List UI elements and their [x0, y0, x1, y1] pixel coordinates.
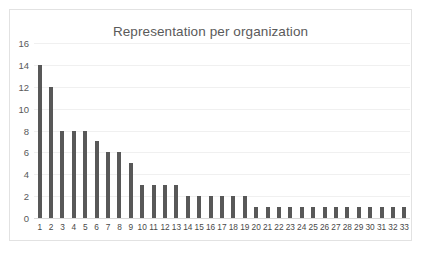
bar	[72, 131, 76, 219]
bar-group: 7	[102, 43, 113, 218]
bar-group: 16	[205, 43, 216, 218]
bar-group: 15	[194, 43, 205, 218]
x-axis-tick-label: 12	[160, 222, 169, 232]
x-axis-tick-label: 30	[365, 222, 374, 232]
axis-baseline	[34, 218, 410, 219]
x-axis-tick-label: 14	[183, 222, 192, 232]
bar	[368, 207, 372, 218]
bar	[300, 207, 304, 218]
bar-group: 25	[307, 43, 318, 218]
bar	[231, 196, 235, 218]
y-axis-tick-label: 16	[18, 38, 29, 49]
x-axis-tick-label: 32	[388, 222, 397, 232]
x-axis-tick-label: 21	[263, 222, 272, 232]
bar-group: 23	[285, 43, 296, 218]
bar	[209, 196, 213, 218]
bar-group: 4	[68, 43, 79, 218]
bar	[288, 207, 292, 218]
bar	[266, 207, 270, 218]
x-axis-tick-label: 17	[217, 222, 226, 232]
bar	[391, 207, 395, 218]
bar-group: 8	[114, 43, 125, 218]
y-axis-tick-label: 2	[24, 191, 29, 202]
x-axis-tick-label: 2	[49, 222, 54, 232]
bar	[163, 185, 167, 218]
y-axis-tick-label: 6	[24, 147, 29, 158]
bar	[152, 185, 156, 218]
x-axis-tick-label: 26	[320, 222, 329, 232]
chart-title: Representation per organization	[10, 24, 411, 39]
x-axis-tick-label: 23	[286, 222, 295, 232]
x-axis-tick-label: 16	[206, 222, 215, 232]
x-axis-tick-label: 19	[240, 222, 249, 232]
bar	[140, 185, 144, 218]
x-axis-tick-label: 5	[83, 222, 88, 232]
bar-group: 28	[342, 43, 353, 218]
x-axis-tick-label: 7	[106, 222, 111, 232]
x-axis-tick-label: 11	[149, 222, 158, 232]
x-axis-tick-label: 9	[129, 222, 134, 232]
x-axis-tick-label: 6	[94, 222, 99, 232]
bar-group: 1	[34, 43, 45, 218]
bar-group: 10	[137, 43, 148, 218]
bar	[174, 185, 178, 218]
bar	[60, 131, 64, 219]
bar-group: 18	[228, 43, 239, 218]
x-axis-tick-label: 31	[377, 222, 386, 232]
bar	[83, 131, 87, 219]
y-axis-tick-label: 0	[24, 213, 29, 224]
bar	[95, 141, 99, 218]
x-axis-tick-label: 27	[331, 222, 340, 232]
bar	[243, 196, 247, 218]
bar-group: 26	[319, 43, 330, 218]
y-axis-tick-label: 10	[18, 103, 29, 114]
x-axis-tick-label: 29	[354, 222, 363, 232]
bar	[277, 207, 281, 218]
bar-group: 24	[296, 43, 307, 218]
x-axis-tick-label: 8	[117, 222, 122, 232]
bar	[380, 207, 384, 218]
x-axis-tick-label: 13	[172, 222, 181, 232]
bar-group: 12	[159, 43, 170, 218]
bar	[357, 207, 361, 218]
x-axis-tick-label: 1	[37, 222, 42, 232]
bar-group: 27	[330, 43, 341, 218]
bar	[334, 207, 338, 218]
bar-group: 31	[376, 43, 387, 218]
bar	[402, 207, 406, 218]
bar-group: 33	[399, 43, 410, 218]
x-axis-tick-label: 18	[229, 222, 238, 232]
y-axis-tick-label: 12	[18, 81, 29, 92]
x-axis-tick-label: 4	[72, 222, 77, 232]
bar	[323, 207, 327, 218]
bar-group: 9	[125, 43, 136, 218]
y-axis-tick-label: 14	[18, 59, 29, 70]
bar	[117, 152, 121, 218]
y-axis-tick-label: 4	[24, 169, 29, 180]
x-axis-tick-label: 25	[309, 222, 318, 232]
bar	[345, 207, 349, 218]
bar-group: 30	[364, 43, 375, 218]
x-axis-tick-label: 20	[252, 222, 261, 232]
bar	[129, 163, 133, 218]
bar-group: 11	[148, 43, 159, 218]
bar-group: 21	[262, 43, 273, 218]
bar	[49, 87, 53, 218]
bar-group: 3	[57, 43, 68, 218]
bar	[38, 65, 42, 218]
x-axis-tick-label: 24	[297, 222, 306, 232]
x-axis-tick-label: 33	[400, 222, 409, 232]
bar	[197, 196, 201, 218]
bar-group: 6	[91, 43, 102, 218]
bar	[220, 196, 224, 218]
bar-group: 14	[182, 43, 193, 218]
y-axis-tick-label: 8	[24, 125, 29, 136]
bar-group: 17	[216, 43, 227, 218]
x-axis-tick-label: 28	[343, 222, 352, 232]
bar	[186, 196, 190, 218]
bar-group: 19	[239, 43, 250, 218]
bar-group: 22	[273, 43, 284, 218]
bar-group: 29	[353, 43, 364, 218]
x-axis-tick-label: 3	[60, 222, 65, 232]
bar	[106, 152, 110, 218]
